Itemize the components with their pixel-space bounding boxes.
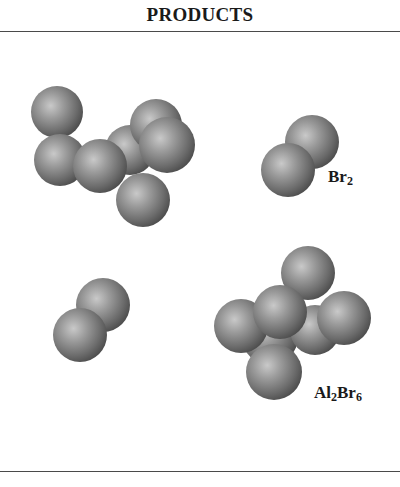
atom-sphere [116,173,170,227]
atom-sphere [246,344,302,400]
atom-sphere [317,291,371,345]
al2br6-label-br: Br [337,383,356,402]
molecule-diagram [0,0,400,487]
atom-sphere [139,117,195,173]
al2br6-label: Al2Br6 [314,383,362,405]
al2br6-label-al: Al [314,383,331,402]
atom-sphere [73,139,127,193]
bottom-divider [0,471,400,472]
atom-sphere [261,143,315,197]
br2-label: Br2 [328,167,353,189]
al2br6-label-sub2: 6 [356,390,362,404]
atom-sphere [253,285,307,339]
br2-label-sub: 2 [347,174,353,188]
atom-sphere [53,308,107,362]
atom-sphere [31,86,83,138]
br2-label-base: Br [328,167,347,186]
